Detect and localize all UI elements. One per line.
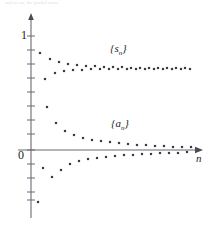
data-point bbox=[114, 155, 116, 157]
data-point bbox=[181, 146, 183, 148]
data-point bbox=[117, 68, 119, 70]
data-point bbox=[144, 68, 146, 70]
data-point bbox=[157, 67, 159, 69]
data-point bbox=[112, 66, 114, 68]
data-point bbox=[175, 67, 177, 69]
data-point bbox=[121, 66, 123, 68]
brace-close-sn: } bbox=[122, 42, 126, 54]
plot-canvas bbox=[0, 0, 209, 226]
data-point bbox=[186, 151, 188, 153]
data-point bbox=[123, 154, 125, 156]
data-point bbox=[162, 68, 164, 70]
data-point bbox=[91, 139, 93, 141]
data-point bbox=[177, 152, 179, 154]
data-point bbox=[150, 153, 152, 155]
data-point bbox=[103, 66, 105, 68]
y-axis-arrowhead bbox=[28, 13, 34, 20]
data-point bbox=[141, 153, 143, 155]
data-point bbox=[82, 137, 84, 139]
data-point bbox=[58, 61, 60, 63]
data-point bbox=[189, 68, 191, 70]
data-point bbox=[135, 68, 137, 70]
origin-label: 0 bbox=[18, 148, 24, 163]
data-point bbox=[99, 68, 101, 70]
data-point bbox=[90, 68, 92, 70]
data-point bbox=[118, 142, 120, 144]
data-point bbox=[37, 201, 39, 203]
data-point bbox=[109, 141, 111, 143]
data-point bbox=[76, 64, 78, 66]
data-point bbox=[180, 68, 182, 70]
data-point bbox=[145, 144, 147, 146]
data-point bbox=[73, 134, 75, 136]
data-point bbox=[85, 65, 87, 67]
data-point bbox=[49, 58, 51, 60]
data-point bbox=[184, 67, 186, 69]
data-point bbox=[105, 156, 107, 158]
data-point bbox=[81, 69, 83, 71]
data-point bbox=[51, 176, 53, 178]
data-point bbox=[67, 63, 69, 65]
terms-annotation: {an} bbox=[111, 117, 129, 132]
data-point bbox=[69, 163, 71, 165]
y-axis-tick-label-1: 1 bbox=[21, 28, 27, 43]
data-point bbox=[94, 65, 96, 67]
data-point bbox=[64, 130, 66, 132]
data-point bbox=[132, 154, 134, 156]
data-point bbox=[127, 143, 129, 145]
data-point bbox=[163, 145, 165, 147]
data-point bbox=[136, 144, 138, 146]
figure-container: and so on, the partial sums 1 0 n {sn} {… bbox=[0, 0, 209, 226]
x-axis-label-n: n bbox=[196, 152, 202, 164]
data-point bbox=[108, 68, 110, 70]
data-point bbox=[39, 52, 41, 54]
data-point bbox=[153, 68, 155, 70]
data-point bbox=[126, 68, 128, 70]
data-point bbox=[55, 122, 57, 124]
data-point bbox=[154, 145, 156, 147]
data-point bbox=[60, 169, 62, 171]
data-point bbox=[166, 67, 168, 69]
data-point bbox=[172, 146, 174, 148]
data-point bbox=[159, 152, 161, 154]
data-point bbox=[130, 67, 132, 69]
data-point bbox=[72, 69, 74, 71]
data-point bbox=[148, 67, 150, 69]
data-point bbox=[168, 152, 170, 154]
data-point bbox=[42, 167, 44, 169]
data-point bbox=[78, 160, 80, 162]
brace-close-an: } bbox=[124, 117, 128, 129]
data-point bbox=[190, 146, 192, 148]
data-point bbox=[87, 158, 89, 160]
data-point bbox=[171, 68, 173, 70]
data-point bbox=[46, 106, 48, 108]
data-point bbox=[100, 140, 102, 142]
partial-sums-annotation: {sn} bbox=[110, 42, 127, 57]
data-point bbox=[63, 70, 65, 72]
data-point bbox=[54, 72, 56, 74]
data-point bbox=[96, 157, 98, 159]
data-point bbox=[139, 67, 141, 69]
data-point bbox=[44, 78, 46, 80]
